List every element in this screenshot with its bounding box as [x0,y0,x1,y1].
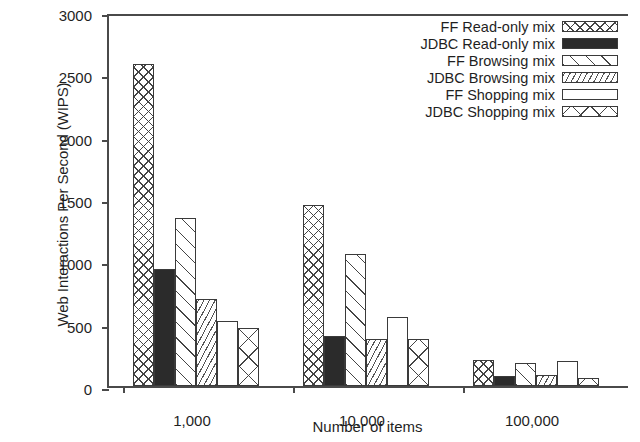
bar-ff-read-only-mix-100000 [473,360,494,386]
x-axis-tick [123,386,125,393]
legend-item: JDBC Read-only mix [394,35,618,52]
legend-swatch-bigx [562,106,618,117]
bar-jdbc-shopping-mix-100000 [578,378,599,386]
legend-item-label: JDBC Shopping mix [425,104,555,120]
y-axis-tick: 1000 [102,264,109,266]
y-axis-tick-label: 2000 [59,132,92,149]
chart-legend: FF Read-only mixJDBC Read-only mixFF Bro… [390,16,622,123]
y-axis-tick-label: 2500 [59,69,92,86]
legend-item-label: FF Browsing mix [447,53,555,69]
bar-jdbc-shopping-mix-10000 [408,339,429,386]
legend-item-label: FF Shopping mix [445,87,555,103]
legend-item-label: JDBC Read-only mix [420,36,555,52]
x-axis-tick [293,386,295,393]
bar-jdbc-browsing-mix-1000 [196,299,217,386]
y-axis-tick-label: 500 [67,319,92,336]
legend-swatch-diag [562,55,618,66]
y-axis-tick-label: 1000 [59,256,92,273]
bar-ff-browsing-mix-1000 [175,218,196,386]
x-axis-title: Number of items [107,418,628,435]
bar-chart: Web Interactions Per Second (WIPS) 05001… [0,0,640,442]
legend-item: JDBC Browsing mix [394,69,618,86]
legend-item: JDBC Shopping mix [394,103,618,120]
bar-jdbc-browsing-mix-10000 [366,339,387,386]
bar-jdbc-read-only-mix-100000 [494,376,515,386]
y-axis-tick: 500 [102,327,109,329]
bar-jdbc-shopping-mix-1000 [238,328,259,386]
bar-jdbc-read-only-mix-10000 [324,336,345,386]
legend-swatch-empty [562,89,618,100]
y-axis-tick: 2500 [102,77,109,79]
legend-swatch-dense [562,72,618,83]
bar-ff-shopping-mix-10000 [387,317,408,386]
legend-item-label: JDBC Browsing mix [427,70,555,86]
bar-jdbc-read-only-mix-1000 [154,269,175,386]
y-axis-tick-label: 1500 [59,194,92,211]
y-axis-tick: 0 [102,389,109,391]
legend-item: FF Browsing mix [394,52,618,69]
y-axis-tick-label: 3000 [59,7,92,24]
x-axis-tick [463,386,465,393]
bar-ff-read-only-mix-10000 [303,205,324,386]
y-axis-tick-label: 0 [84,381,92,398]
bar-ff-browsing-mix-10000 [345,254,366,386]
legend-item: FF Shopping mix [394,86,618,103]
legend-item: FF Read-only mix [394,18,618,35]
legend-swatch-crosshatch [562,21,618,32]
y-axis-tick: 2000 [102,140,109,142]
legend-item-label: FF Read-only mix [441,19,555,35]
y-axis-tick: 3000 [102,15,109,17]
y-axis-tick: 1500 [102,202,109,204]
legend-swatch-solid [562,38,618,49]
bar-ff-browsing-mix-100000 [515,363,536,386]
bar-ff-shopping-mix-1000 [217,321,238,386]
bar-ff-shopping-mix-100000 [557,361,578,386]
bar-jdbc-browsing-mix-100000 [536,375,557,386]
bar-ff-read-only-mix-1000 [133,64,154,386]
